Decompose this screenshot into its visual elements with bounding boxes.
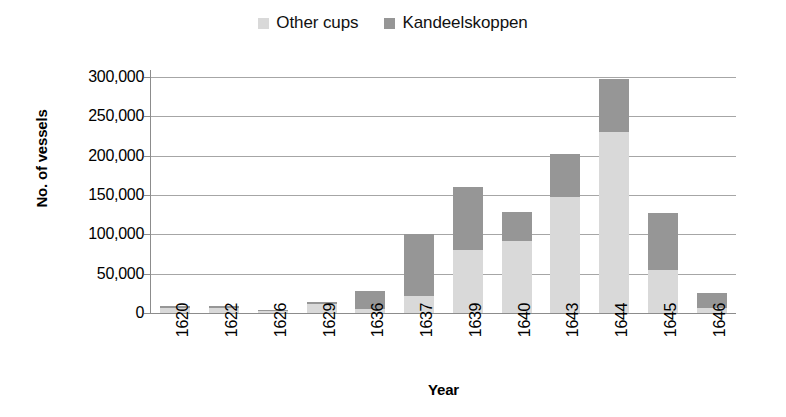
x-axis-tick-slot: 1643 [541,318,590,378]
y-axis-tick-mark [144,274,151,275]
bar-stack[interactable] [550,154,580,313]
x-axis-tick-label: 1646 [712,303,728,337]
bar-group[interactable] [346,77,395,313]
y-axis-tick-label: 100,000 [58,226,144,242]
bar-series-group [151,77,736,313]
bar-stack[interactable] [502,212,532,313]
bar-segment-kandeelskoppen[interactable] [502,212,532,241]
bar-group[interactable] [444,77,493,313]
legend-swatch-other-cups [258,18,269,29]
legend-item-kandeelskoppen: Kandeelskoppen [384,14,527,32]
y-axis-tick-mark [144,313,151,314]
bar-chart: Other cups Kandeelskoppen No. of vessels… [0,0,786,417]
x-axis-tick-slot: 1639 [444,318,493,378]
bar-group[interactable] [297,77,346,313]
bar-group[interactable] [541,77,590,313]
y-axis-tick-mark [144,116,151,117]
y-axis-tick-mark [144,234,151,235]
x-axis-tick-slot: 1645 [639,318,688,378]
bar-group[interactable] [200,77,249,313]
x-axis-tick-slot: 1646 [687,318,736,378]
bar-group[interactable] [687,77,736,313]
bar-segment-kandeelskoppen[interactable] [648,213,678,270]
x-axis-tick-label: 1620 [175,303,191,337]
x-axis-tick-labels: 1620162216261629163616371639164016431644… [151,318,736,378]
legend-item-other-cups: Other cups [258,14,358,32]
legend-label-kandeelskoppen: Kandeelskoppen [402,14,527,32]
bar-group[interactable] [151,77,200,313]
bar-segment-kandeelskoppen[interactable] [550,154,580,197]
bar-stack[interactable] [453,187,483,313]
bar-stack[interactable] [648,213,678,313]
y-axis-tick-mark [144,77,151,78]
x-axis-tick-slot: 1626 [249,318,298,378]
x-axis-tick-slot: 1637 [395,318,444,378]
bar-group[interactable] [395,77,444,313]
legend-label-other-cups: Other cups [276,14,358,32]
plot-area [151,77,736,313]
y-axis-tick-mark [144,195,151,196]
x-axis-title: Year [151,381,736,398]
bar-segment-other-cups[interactable] [599,132,629,313]
y-axis-title: No. of vessels [33,74,50,244]
y-axis-tick-label: 50,000 [58,266,144,282]
bar-segment-kandeelskoppen[interactable] [404,234,434,295]
x-axis-tick-label: 1622 [224,303,240,337]
x-axis-tick-label: 1645 [663,303,679,337]
bar-group[interactable] [249,77,298,313]
y-axis-tick-label: 300,000 [58,69,144,85]
x-axis-tick-slot: 1640 [492,318,541,378]
x-axis-tick-slot: 1622 [200,318,249,378]
bar-segment-kandeelskoppen[interactable] [599,79,629,132]
x-axis-tick-label: 1637 [419,303,435,337]
bar-stack[interactable] [404,234,434,313]
bar-group[interactable] [492,77,541,313]
bar-group[interactable] [639,77,688,313]
legend-swatch-kandeelskoppen [384,18,395,29]
x-axis-tick-label: 1629 [322,303,338,337]
y-axis-tick-label: 0 [58,305,144,321]
bar-segment-kandeelskoppen[interactable] [453,187,483,250]
y-axis-tick-label: 200,000 [58,148,144,164]
x-axis-tick-slot: 1636 [346,318,395,378]
x-axis-tick-label: 1640 [517,303,533,337]
y-axis-tick-label: 150,000 [58,187,144,203]
x-axis-tick-label: 1639 [468,303,484,337]
x-axis-tick-slot: 1629 [297,318,346,378]
bar-segment-other-cups[interactable] [550,197,580,313]
x-axis-tick-slot: 1620 [151,318,200,378]
bar-group[interactable] [590,77,639,313]
x-axis-tick-label: 1643 [565,303,581,337]
y-axis-tick-label: 250,000 [58,108,144,124]
x-axis-tick-label: 1636 [370,303,386,337]
x-axis-tick-label: 1626 [273,303,289,337]
y-axis-tick-mark [144,156,151,157]
bar-stack[interactable] [599,79,629,313]
y-axis-tick-labels: 050,000100,000150,000200,000250,000300,0… [58,0,144,417]
x-axis-tick-label: 1644 [614,303,630,337]
x-axis-tick-slot: 1644 [590,318,639,378]
